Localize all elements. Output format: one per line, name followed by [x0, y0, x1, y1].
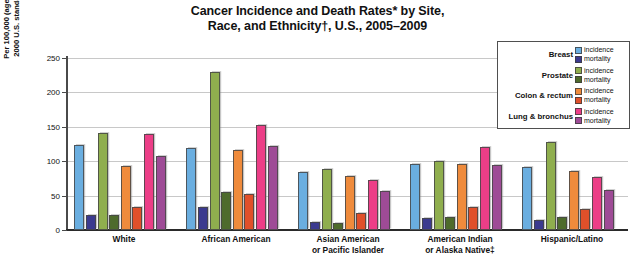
- bar: [268, 146, 278, 230]
- bar: [156, 156, 166, 230]
- bar: [186, 148, 196, 230]
- legend-color-chip: [575, 47, 582, 54]
- legend-item-mortality[interactable]: mortality: [575, 96, 627, 104]
- legend-site-label: Prostate: [542, 71, 575, 80]
- bar: [592, 177, 602, 230]
- y-axis-title-line-1: Per 100,000 (age adjusted to the: [2, 0, 12, 86]
- bar: [492, 165, 502, 230]
- x-axis-group-label-line: or Pacific Islander: [292, 245, 404, 256]
- x-axis-group-label-line: White: [68, 234, 180, 245]
- bar: [434, 161, 444, 230]
- bar: [546, 142, 556, 230]
- legend-measure-label: mortality: [584, 117, 610, 125]
- legend-row[interactable]: Breastincidencemortality: [498, 45, 627, 64]
- bar: [522, 167, 532, 230]
- bar: [210, 72, 220, 230]
- bar: [86, 215, 96, 230]
- bar: [198, 207, 208, 230]
- legend-item-mortality[interactable]: mortality: [575, 55, 627, 63]
- bar: [233, 150, 243, 230]
- y-axis-title: Per 100,000 (age adjusted to the 2000 U.…: [2, 0, 28, 86]
- bar: [322, 169, 332, 230]
- legend-color-chip: [575, 117, 582, 124]
- y-axis-tick-label: 200: [34, 88, 60, 97]
- y-axis-tick-label: 0: [34, 226, 60, 235]
- legend-swatch-group: incidencemortality: [575, 46, 627, 63]
- bar: [604, 190, 614, 230]
- y-axis-tick-mark: [62, 127, 67, 128]
- cancer-rates-bar-chart: Cancer Incidence and Death Rates* by Sit…: [0, 0, 635, 257]
- bar: [144, 134, 154, 230]
- bar: [98, 133, 108, 230]
- bar-group: [292, 58, 404, 230]
- bar: [422, 218, 432, 230]
- bar: [445, 217, 455, 230]
- legend-color-chip: [575, 88, 582, 95]
- chart-title-line-1: Cancer Incidence and Death Rates* by Sit…: [191, 4, 445, 18]
- x-axis-group-label-line: Asian American: [292, 234, 404, 245]
- legend-color-chip: [575, 97, 582, 104]
- x-axis-group-label-line: Hispanic/Latino: [516, 234, 628, 245]
- bar: [310, 222, 320, 230]
- legend-color-chip: [575, 108, 582, 115]
- y-axis-title-line-2: 2000 U.S. standard population): [12, 0, 22, 86]
- legend-item-incidence[interactable]: incidence: [575, 108, 627, 116]
- bar: [121, 166, 131, 230]
- x-axis-group-label: American Indianor Alaska Native‡: [404, 234, 516, 255]
- legend-item-mortality[interactable]: mortality: [575, 76, 627, 84]
- legend-row[interactable]: Colon & rectumincidencemortality: [498, 86, 627, 105]
- legend-site-label: Breast: [549, 50, 575, 59]
- y-axis-tick-mark: [62, 58, 67, 59]
- legend-measure-label: mortality: [584, 76, 610, 84]
- legend-swatch-group: incidencemortality: [575, 67, 627, 84]
- bar: [380, 191, 390, 230]
- y-axis-tick-labels: 250200150100500: [30, 58, 60, 230]
- chart-title-line-2: Race, and Ethnicity†, U.S., 2005–2009: [0, 19, 635, 34]
- bar: [256, 125, 266, 230]
- legend-measure-label: mortality: [584, 55, 610, 63]
- legend-row[interactable]: Lung & bronchusincidencemortality: [498, 107, 627, 126]
- legend-site-label: Lung & bronchus: [508, 112, 575, 121]
- legend-measure-label: incidence: [584, 87, 614, 95]
- bar: [368, 180, 378, 230]
- legend-measure-label: incidence: [584, 46, 614, 54]
- bar: [333, 223, 343, 230]
- x-axis-group-label: African American: [180, 234, 292, 245]
- bar: [580, 209, 590, 230]
- legend-row[interactable]: Prostateincidencemortality: [498, 66, 627, 85]
- bar: [132, 207, 142, 230]
- y-axis-tick-label: 50: [34, 192, 60, 201]
- bar: [221, 192, 231, 230]
- x-axis-group-label-line: American Indian: [404, 234, 516, 245]
- legend-site-label: Colon & rectum: [515, 91, 575, 100]
- legend-measure-label: incidence: [584, 67, 614, 75]
- legend-item-incidence[interactable]: incidence: [575, 46, 627, 54]
- bar: [74, 145, 84, 230]
- x-axis-group-label-line: or Alaska Native‡: [404, 245, 516, 256]
- x-axis-group-label: White: [68, 234, 180, 245]
- chart-legend: BreastincidencemortalityProstateincidenc…: [497, 41, 630, 129]
- bar: [109, 215, 119, 230]
- y-axis-tick-label: 250: [34, 54, 60, 63]
- legend-item-incidence[interactable]: incidence: [575, 87, 627, 95]
- bar-group: [180, 58, 292, 230]
- y-axis-tick-mark: [62, 196, 67, 197]
- bar: [410, 164, 420, 230]
- y-axis-tick-label: 100: [34, 157, 60, 166]
- bar: [345, 176, 355, 230]
- legend-item-incidence[interactable]: incidence: [575, 67, 627, 75]
- y-axis-tick-mark: [62, 92, 67, 93]
- legend-swatch-group: incidencemortality: [575, 87, 627, 104]
- legend-color-chip: [575, 56, 582, 63]
- bar: [534, 220, 544, 230]
- y-axis-tick-mark: [62, 230, 67, 231]
- x-axis-group-label: Asian Americanor Pacific Islander: [292, 234, 404, 255]
- bar: [244, 194, 254, 230]
- legend-item-mortality[interactable]: mortality: [575, 117, 627, 125]
- x-axis-group-label: Hispanic/Latino: [516, 234, 628, 245]
- y-axis-tick-mark: [62, 161, 67, 162]
- bar: [557, 217, 567, 230]
- legend-color-chip: [575, 76, 582, 83]
- bar: [468, 207, 478, 230]
- y-axis-tick-label: 150: [34, 123, 60, 132]
